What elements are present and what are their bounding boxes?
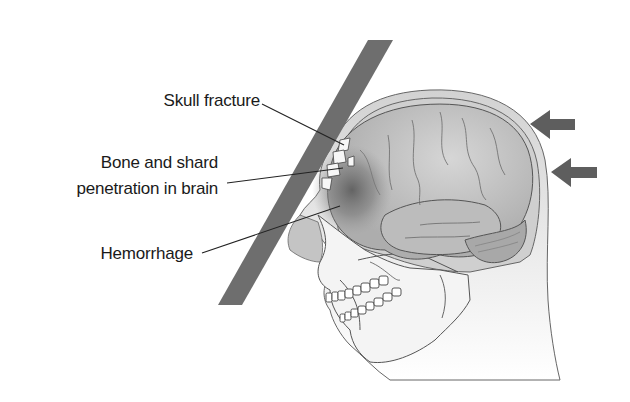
label-bone-shard-line2: penetration in brain: [40, 179, 218, 199]
head-injury-diagram: [0, 0, 630, 402]
force-arrow-bottom-icon: [551, 158, 597, 187]
label-skull-fracture: Skull fracture: [136, 91, 260, 111]
label-hemorrhage: Hemorrhage: [60, 244, 193, 264]
label-bone-shard-line1: Bone and shard: [40, 153, 218, 173]
force-arrow-top-icon: [530, 110, 575, 139]
